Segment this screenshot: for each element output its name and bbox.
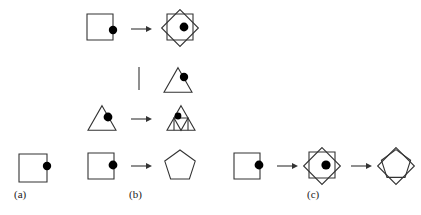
shape-triangle-nested [167, 106, 195, 131]
inner-triangle-outline [174, 118, 188, 130]
panel-a [19, 154, 51, 182]
shape-square [234, 153, 263, 179]
pentagon-outline [165, 150, 195, 179]
panel-label-a: (a) [14, 189, 26, 200]
row-triangle-rule [88, 106, 195, 131]
arrow-group [131, 163, 152, 169]
figure-root: (a) (b) (c) [0, 0, 421, 215]
row-top [87, 10, 198, 47]
shape-pentagon [165, 150, 195, 179]
marker-dot [255, 161, 264, 170]
shape-triangle [164, 68, 192, 93]
marker-dot [175, 113, 182, 120]
arrow-head [146, 116, 152, 122]
panel-c [234, 148, 414, 185]
shape-square [19, 154, 51, 182]
marker-dot [43, 162, 51, 170]
square-outline [87, 14, 113, 40]
shape-diamond-square [162, 10, 199, 47]
arrow-group [131, 116, 152, 122]
shape-triangle [88, 106, 116, 131]
marker-dot [180, 73, 188, 81]
square-outline [19, 154, 47, 182]
row-bottom [88, 150, 195, 179]
marker-dot [321, 160, 330, 169]
arrow-head [292, 163, 298, 169]
marker-dot [180, 23, 189, 32]
marker-dot [109, 26, 117, 34]
shape-diamond-pentagon [378, 148, 415, 185]
shape-square [87, 14, 117, 40]
arrow-group [351, 163, 372, 169]
panel-label-b: (b) [129, 189, 142, 200]
arrow-head [146, 163, 152, 169]
arrow-head [146, 26, 152, 32]
panel-label-c: (c) [307, 189, 319, 200]
arrow-head [366, 163, 372, 169]
panel-b [87, 10, 198, 179]
marker-dot [104, 113, 113, 122]
row-middle-divider [139, 67, 192, 92]
pentagon-outline [381, 150, 410, 178]
shape-transformation-diagram [0, 0, 421, 215]
shape-diamond-square [304, 148, 341, 185]
shape-square [88, 153, 117, 179]
arrow-group [277, 163, 298, 169]
marker-dot [109, 161, 118, 170]
triangle-outline [164, 68, 192, 93]
arrow-group [131, 26, 152, 32]
